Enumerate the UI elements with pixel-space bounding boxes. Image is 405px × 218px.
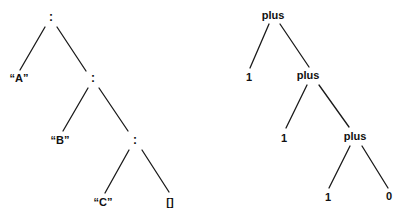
cons-node-root: : — [49, 11, 53, 23]
list-cons-tree-edges — [20, 27, 169, 193]
edge — [362, 146, 388, 188]
plus-node-root: plus — [262, 10, 285, 21]
edge — [142, 150, 169, 192]
plus-node-3: plus — [344, 131, 367, 142]
edge — [319, 85, 349, 127]
edge — [250, 24, 269, 68]
leaf-node-nil: [] — [166, 197, 173, 208]
edge — [329, 146, 350, 188]
edge — [63, 88, 88, 131]
leaf-node-1a: 1 — [246, 72, 252, 83]
leaf-node-0: 0 — [386, 191, 392, 202]
leaf-node-c: “C” — [94, 197, 113, 208]
edge — [57, 27, 86, 71]
cons-node-3: : — [133, 134, 137, 146]
plus-tree-edges — [250, 24, 388, 188]
tree-edges — [0, 0, 405, 218]
leaf-node-b: “B” — [51, 135, 70, 146]
edge — [286, 85, 307, 128]
leaf-node-a: “A” — [10, 73, 29, 84]
edge — [280, 24, 309, 67]
edge — [105, 150, 129, 193]
leaf-node-1c: 1 — [325, 192, 331, 203]
edge — [99, 88, 128, 131]
leaf-node-1b: 1 — [281, 133, 287, 144]
edge — [20, 27, 45, 70]
cons-node-2: : — [91, 72, 95, 84]
plus-node-2: plus — [297, 70, 320, 81]
